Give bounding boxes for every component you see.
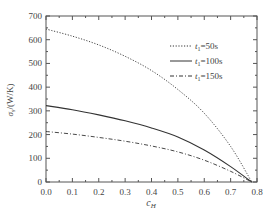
y-tick-label: 700 xyxy=(29,11,43,21)
y-tick-label: 300 xyxy=(29,106,43,116)
y-tick-label: 600 xyxy=(29,35,43,45)
legend-label: t1=50s xyxy=(195,41,219,52)
y-tick-label: 500 xyxy=(29,58,43,68)
x-tick-label: 0.1 xyxy=(67,187,78,197)
x-tick-label: 0.8 xyxy=(251,187,263,197)
x-tick-label: 0.3 xyxy=(120,187,132,197)
data-series xyxy=(46,29,252,182)
line-chart: 0.00.10.20.30.40.50.60.70.80100200300400… xyxy=(0,0,272,220)
y-tick-label: 0 xyxy=(38,177,43,187)
y-tick-label: 200 xyxy=(29,130,43,140)
x-tick-label: 0.6 xyxy=(199,187,211,197)
series-line-dashdot xyxy=(46,131,252,182)
x-tick-label: 0.2 xyxy=(93,187,104,197)
legend-label: t1=100s xyxy=(195,56,223,67)
plot-frame xyxy=(46,16,257,182)
legend-label: t1=150s xyxy=(195,71,223,82)
x-axis-label: cH xyxy=(146,197,156,210)
x-tick-label: 0.7 xyxy=(225,187,237,197)
x-tick-label: 0.0 xyxy=(40,187,52,197)
y-tick-label: 100 xyxy=(29,153,43,163)
x-tick-label: 0.4 xyxy=(146,187,158,197)
series-line-solid xyxy=(46,106,252,182)
y-axis-label: σs/(W/K) xyxy=(5,84,16,117)
y-tick-label: 400 xyxy=(29,82,43,92)
series-line-dotted xyxy=(46,29,252,182)
plot-axes: 0.00.10.20.30.40.50.60.70.80100200300400… xyxy=(29,11,264,197)
x-tick-label: 0.5 xyxy=(172,187,184,197)
legend: t1=50st1=100st1=150s xyxy=(170,41,223,82)
